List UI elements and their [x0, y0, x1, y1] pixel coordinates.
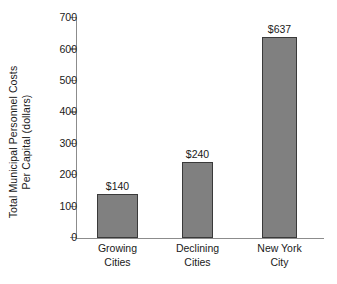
- y-axis-title-line-1: Total Municipal Personnel Costs: [7, 66, 19, 219]
- y-axis-tick-label-row: 0: [32, 232, 77, 243]
- bar: [97, 194, 138, 238]
- x-axis-category-label-line-1: Growing: [98, 242, 137, 254]
- x-axis-category-label-line-2: Cities: [73, 256, 163, 270]
- x-axis-line: [76, 238, 324, 239]
- x-axis-category-label: GrowingCities: [73, 242, 163, 269]
- y-axis-tick-label: 300: [49, 138, 77, 149]
- y-axis-tick-label: 700: [49, 12, 77, 23]
- bar-chart-figure: Total Municipal Personnel Costs Per Capi…: [0, 0, 337, 284]
- y-axis-tick-label-row: 300: [32, 138, 77, 149]
- bar-value-label: $637: [250, 23, 310, 35]
- y-axis-tick-label-row: 700: [32, 12, 77, 23]
- y-axis-tick-label-row: 200: [32, 169, 77, 180]
- x-axis-category-label-line-2: City: [235, 256, 325, 270]
- y-axis-tick-label-row: 600: [32, 44, 77, 55]
- x-axis-category-label: DecliningCities: [153, 242, 243, 269]
- x-axis-category-label: New YorkCity: [235, 242, 325, 269]
- bar-value-label: $240: [168, 148, 228, 160]
- x-axis-category-label-line-1: New York: [257, 242, 301, 254]
- y-axis-title-line-2: Per Capital (dollars): [20, 95, 32, 190]
- y-axis-tick-label: 200: [49, 169, 77, 180]
- bar: [262, 37, 297, 237]
- y-axis-tick-label-row: 400: [32, 106, 77, 117]
- x-axis-category-label-line-1: Declining: [176, 242, 219, 254]
- y-axis-tick-label: 600: [49, 44, 77, 55]
- y-axis-tick-label: 400: [49, 106, 77, 117]
- y-axis-tick-label: 100: [49, 201, 77, 212]
- bar: [182, 162, 213, 237]
- bar-value-label: $140: [88, 180, 148, 192]
- y-axis-tick-label-row: 500: [32, 75, 77, 86]
- y-axis-tick-label: 500: [49, 75, 77, 86]
- y-axis-tick-label-row: 100: [32, 201, 77, 212]
- x-axis-category-label-line-2: Cities: [153, 256, 243, 270]
